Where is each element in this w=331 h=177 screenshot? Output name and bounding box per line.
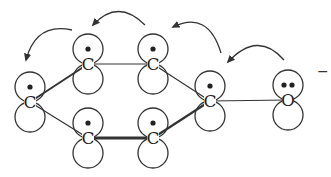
arrow-o-to-c4-curved-arrow-icon	[228, 45, 284, 62]
electron-dot	[207, 83, 212, 88]
electron-dot	[85, 46, 90, 51]
arrow-c4-to-c3-curved-arrow-icon	[173, 22, 221, 53]
atom-label-c4: C	[203, 91, 216, 111]
electron-dot	[289, 82, 294, 87]
bond-c5-c4	[153, 101, 210, 138]
negative-charge: −	[317, 63, 329, 79]
atom-label-c3: C	[146, 54, 159, 74]
bond-c1-c6	[30, 102, 88, 138]
bond-c3-c4	[153, 64, 210, 101]
atom-label-c5: C	[146, 128, 159, 148]
electron-dot	[85, 120, 90, 125]
electron-dot	[150, 46, 155, 51]
bond-c1-c2	[30, 64, 88, 102]
atom-label-c1: C	[23, 92, 36, 112]
arrow-c3-to-c2-curved-arrow-icon	[93, 12, 145, 26]
electron-dot	[150, 120, 155, 125]
bonds-layer	[30, 64, 288, 138]
arrow-c2-to-c1-curved-arrow-icon	[26, 29, 72, 60]
atom-label-o1: O	[281, 90, 295, 110]
electron-dot	[27, 84, 32, 89]
atom-label-c6: C	[81, 128, 94, 148]
bond-c4-o1	[210, 100, 288, 101]
electron-dot	[281, 82, 286, 87]
atom-label-c2: C	[81, 54, 94, 74]
resonance-diagram: CCCCCCO −	[0, 0, 331, 177]
